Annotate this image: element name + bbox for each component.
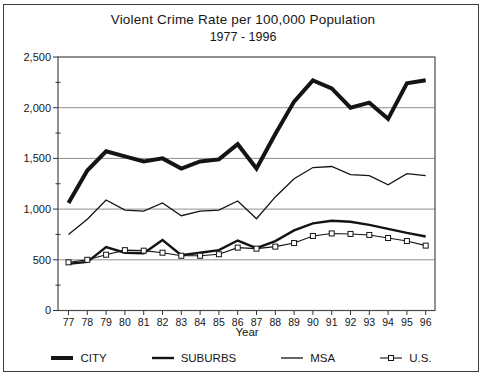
x-axis-tick-label: 81 [138,316,150,328]
us-data-marker [367,232,372,237]
legend-item-msa: MSA [280,352,335,364]
x-axis-tick-label: 92 [345,316,357,328]
us-data-marker [273,244,278,249]
us-data-marker [198,253,203,258]
x-axis-tick-label: 96 [420,316,432,328]
x-axis-tick-label: 93 [363,316,375,328]
us-data-marker [386,235,391,240]
us-data-marker [292,241,297,246]
x-axis-tick-label: 91 [326,316,338,328]
x-axis-tick-label: 89 [288,316,300,328]
series-line-suburbs [69,221,426,264]
msa-line-swatch-icon [280,353,304,363]
plot-area [58,57,435,311]
x-axis-label: Year [235,326,258,338]
y-axis-tick-label: 500 [33,254,51,266]
y-axis-tick-label: 1,000 [23,203,51,215]
x-axis-tick-label: 95 [401,316,413,328]
x-axis-tick-label: 88 [269,316,281,328]
us-data-marker [104,252,109,257]
us-data-marker [329,231,334,236]
legend-item-suburbs: SUBURBS [151,352,237,364]
us-data-marker [348,231,353,236]
x-axis-tick-label: 80 [119,316,131,328]
us-data-marker [141,248,146,253]
us-data-marker [85,257,90,262]
us-data-marker [235,245,240,250]
legend-item-city: CITY [50,352,106,364]
legend-label-suburbs: SUBURBS [181,352,237,364]
us-data-marker [160,250,165,255]
us-data-marker [404,239,409,244]
us-data-marker [122,248,127,253]
y-axis-tick-label: 0 [45,304,51,316]
city-line-swatch-icon [50,353,74,363]
y-axis-tick-label: 2,000 [23,102,51,114]
page: Violent Crime Rate per 100,000 Populatio… [0,0,486,381]
x-axis-tick-label: 83 [175,316,187,328]
x-axis-tick-label: 78 [81,316,93,328]
legend-item-us: U.S. [379,352,431,364]
x-axis-tick-label: 84 [194,316,206,328]
x-axis-tick-label: 85 [213,316,225,328]
y-axis-tick-label: 2,500 [23,51,51,63]
series-line-city [69,80,426,203]
legend-label-us: U.S. [409,352,431,364]
legend: CITY SUBURBS MSA U.S. [3,348,479,368]
x-axis-tick-label: 77 [63,316,75,328]
us-data-marker [216,252,221,257]
x-axis-tick-label: 79 [100,316,112,328]
us-data-marker [423,243,428,248]
y-axis-tick-label: 1,500 [23,152,51,164]
x-axis-tick-label: 94 [382,316,394,328]
us-data-marker [310,233,315,238]
legend-label-city: CITY [80,352,106,364]
us-line-swatch-icon [379,353,403,363]
suburbs-line-swatch-icon [151,353,175,363]
us-data-marker [66,260,71,265]
legend-label-msa: MSA [310,352,335,364]
us-data-marker [254,246,259,251]
x-axis-tick-label: 90 [307,316,319,328]
crime-trend-chart: 05001,0001,5002,0002,5007778798081828384… [0,0,486,381]
x-axis-tick-label: 82 [157,316,169,328]
us-data-marker [179,253,184,258]
